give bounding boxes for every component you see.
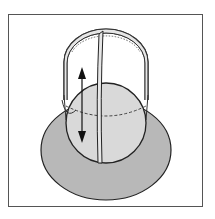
sphere [66, 83, 146, 163]
diagram-canvas [0, 0, 215, 219]
